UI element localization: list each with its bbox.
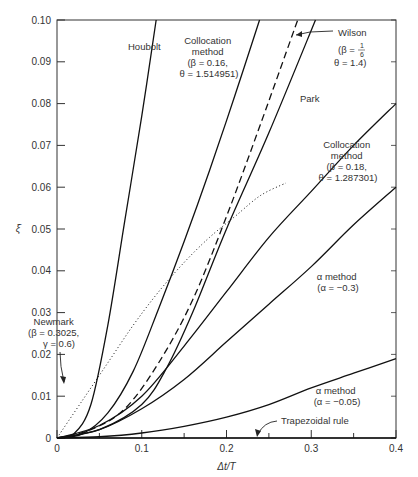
series-line bbox=[57, 20, 298, 438]
series-line bbox=[57, 183, 286, 438]
label-park: Park bbox=[300, 93, 320, 104]
chart: 00.010.020.030.040.050.060.070.080.090.1… bbox=[0, 0, 418, 477]
annotations: Houbolt Collocation method (β = 0.16, θ … bbox=[28, 27, 377, 426]
label-newmark: Newmark (β = 0.3025, γ = 0.6) bbox=[28, 316, 82, 349]
label-houbolt: Houbolt bbox=[128, 41, 161, 52]
label-alpha-2: α method (α = −0.05) bbox=[314, 385, 361, 407]
y-tick-label: 0.06 bbox=[32, 182, 52, 193]
x-tick-label: 0.2 bbox=[220, 443, 234, 454]
y-tick-label: 0.10 bbox=[32, 15, 52, 26]
y-tick-label: 0.04 bbox=[32, 265, 52, 276]
series-line bbox=[57, 20, 260, 438]
x-axis-label: Δt/T bbox=[216, 461, 236, 472]
y-tick-label: 0.07 bbox=[32, 140, 52, 151]
x-tick-label: 0.1 bbox=[135, 443, 149, 454]
series-line bbox=[57, 20, 156, 438]
y-axis-label: ξ̄ bbox=[16, 223, 22, 235]
label-wilson-beta: (β = bbox=[338, 44, 355, 55]
x-tick-label: 0 bbox=[54, 443, 60, 454]
y-tick-label: 0.05 bbox=[32, 224, 52, 235]
label-wilson: Wilson bbox=[338, 27, 367, 38]
y-tick-label: 0.02 bbox=[32, 349, 52, 360]
y-tick-label: 0.08 bbox=[32, 98, 52, 109]
label-collocation-2: Collocation method (β = 0.18, θ = 1.2873… bbox=[319, 139, 378, 183]
y-tick-label: 0 bbox=[45, 433, 51, 444]
x-tick-label: 0.3 bbox=[304, 443, 318, 454]
label-alpha-1: α method (α = −0.3) bbox=[317, 271, 359, 293]
annotation-arrows bbox=[60, 31, 333, 437]
label-trapezoidal: Trapezoidal rule bbox=[281, 415, 349, 426]
x-tick-label: 0.4 bbox=[389, 443, 403, 454]
y-tick-label: 0.09 bbox=[32, 56, 52, 67]
wilson-frac-num: 1 bbox=[360, 42, 364, 49]
y-tick-label: 0.01 bbox=[32, 391, 52, 402]
label-collocation-1: Collocation method (β = 0.16, θ = 1.5149… bbox=[180, 35, 239, 79]
curves bbox=[57, 20, 396, 438]
label-wilson-theta: θ = 1.4) bbox=[334, 57, 366, 68]
